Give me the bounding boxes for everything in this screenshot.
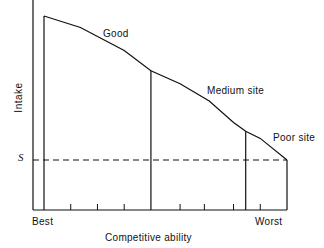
x-tick-label-worst: Worst: [255, 216, 282, 227]
site-label-good: Good: [103, 28, 129, 39]
site-label-poor: Poor site: [273, 132, 315, 143]
diagram-svg: [0, 0, 324, 248]
x-tick-label-best: Best: [32, 216, 53, 227]
y-axis-label: Intake: [13, 78, 24, 118]
threshold-label: S: [18, 151, 24, 163]
site-label-medium: Medium site: [207, 85, 264, 96]
x-axis-label: Competitive ability: [105, 232, 192, 243]
